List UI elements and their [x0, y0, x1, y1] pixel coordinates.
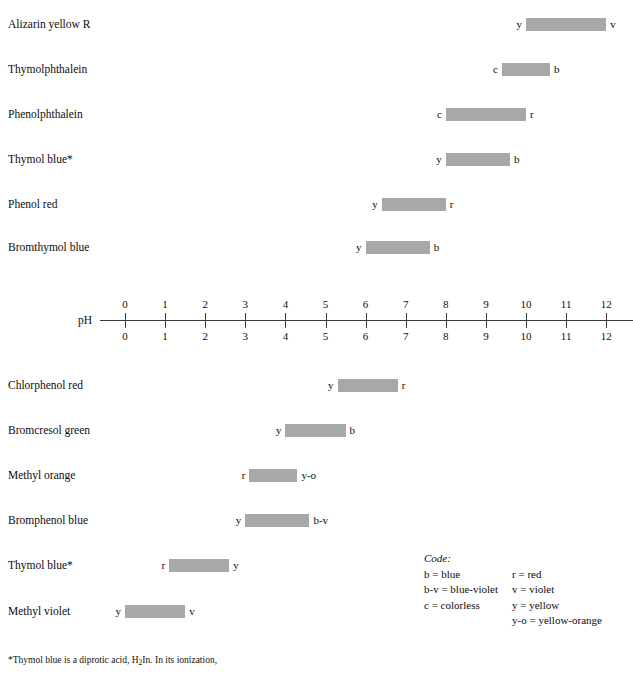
axis-tick-label-bottom-10: 10	[521, 330, 532, 343]
indicator-acid-color-code: y	[116, 600, 126, 622]
axis-tick-2	[205, 313, 206, 328]
axis-tick-label-top-10: 10	[521, 298, 532, 311]
indicator-acid-color-code: y	[517, 13, 527, 35]
axis-tick-label-top-11: 11	[561, 298, 572, 311]
indicator-name: Methyl orange	[8, 464, 75, 486]
axis-tick-label-top-2: 2	[202, 298, 208, 311]
axis-tick-label-bottom-0: 0	[122, 330, 128, 343]
indicator-row: Thymol blue*yb	[0, 148, 633, 170]
axis-tick-1	[165, 313, 166, 328]
indicator-name: Thymolphthalein	[8, 58, 87, 80]
indicator-base-color-code: r	[446, 193, 454, 215]
indicator-name: Chlorphenol red	[8, 374, 83, 396]
indicator-range-bar	[446, 153, 510, 166]
axis-tick-label-bottom-12: 12	[601, 330, 612, 343]
axis-tick-label-bottom-6: 6	[363, 330, 369, 343]
indicator-name: Thymol blue*	[8, 554, 73, 576]
ph-indicator-chart: Alizarin yellow RyvThymolphthaleincbPhen…	[0, 0, 633, 690]
axis-tick-label-top-7: 7	[403, 298, 409, 311]
axis-tick-label-top-3: 3	[243, 298, 249, 311]
indicator-range-bar	[382, 198, 446, 211]
indicator-base-color-code: b	[550, 58, 560, 80]
legend-entry: b = blue	[424, 567, 498, 583]
indicator-base-color-code: b-v	[309, 509, 328, 531]
indicator-acid-color-code: y	[276, 419, 286, 441]
indicator-range-bar	[249, 469, 297, 482]
legend-entry: y-o = yellow-orange	[512, 613, 602, 629]
legend-entry: v = violet	[512, 582, 602, 598]
axis-tick-12	[606, 313, 607, 328]
indicator-name: Alizarin yellow R	[8, 13, 90, 35]
axis-tick-7	[406, 313, 407, 328]
indicator-base-color-code: v	[606, 13, 616, 35]
legend-entry: b-v = blue-violet	[424, 582, 498, 598]
indicator-range-bar	[285, 424, 345, 437]
axis-tick-9	[486, 313, 487, 328]
indicator-row: Bromcresol greenyb	[0, 419, 633, 441]
indicator-row: Bromphenol blueyb-v	[0, 509, 633, 531]
indicator-row: Methyl orangery-o	[0, 464, 633, 486]
indicator-base-color-code: y-o	[297, 464, 316, 486]
indicator-range-bar	[446, 108, 526, 121]
axis-tick-label-bottom-11: 11	[561, 330, 572, 343]
axis-tick-label-top-6: 6	[363, 298, 369, 311]
indicator-acid-color-code: r	[242, 464, 250, 486]
indicator-range-bar	[526, 18, 606, 31]
axis-tick-label-bottom-4: 4	[283, 330, 289, 343]
footnote-text-a: *Thymol blue is a diprotic acid, H	[8, 655, 139, 665]
indicator-base-color-code: b	[346, 419, 356, 441]
indicator-range-bar	[245, 514, 309, 527]
indicator-acid-color-code: r	[161, 554, 169, 576]
axis-tick-label-bottom-3: 3	[243, 330, 249, 343]
axis-tick-label-top-8: 8	[443, 298, 449, 311]
indicator-range-bar	[125, 605, 185, 618]
legend: Code: b = blueb-v = blue-violetc = color…	[424, 551, 629, 629]
axis-tick-0	[125, 313, 126, 328]
axis-tick-label-bottom-5: 5	[323, 330, 329, 343]
footnote-text-b: In. In its ionization,	[142, 655, 217, 665]
ph-axis: pH 00112233445566778899101011111212	[0, 300, 633, 348]
legend-entry: y = yellow	[512, 598, 602, 614]
indicator-row: Phenolphthaleincr	[0, 103, 633, 125]
indicator-base-color-code: r	[526, 103, 534, 125]
axis-tick-label-bottom-7: 7	[403, 330, 409, 343]
axis-tick-11	[566, 313, 567, 328]
legend-title: Code:	[424, 551, 629, 567]
footnote-subscript: 2	[139, 658, 143, 667]
indicator-base-color-code: b	[430, 236, 440, 258]
indicator-row: Chlorphenol redyr	[0, 374, 633, 396]
indicator-base-color-code: r	[398, 374, 406, 396]
indicator-range-bar	[338, 379, 398, 392]
indicator-name: Bromcresol green	[8, 419, 90, 441]
indicator-base-color-code: y	[229, 554, 239, 576]
axis-tick-5	[326, 313, 327, 328]
indicator-name: Methyl violet	[8, 600, 70, 622]
indicator-row: Thymolphthaleincb	[0, 58, 633, 80]
axis-tick-label-top-4: 4	[283, 298, 289, 311]
axis-tick-10	[526, 313, 527, 328]
axis-tick-label-top-1: 1	[162, 298, 168, 311]
axis-tick-label-top-0: 0	[122, 298, 128, 311]
indicator-acid-color-code: c	[493, 58, 502, 80]
axis-tick-label-bottom-9: 9	[483, 330, 489, 343]
indicator-base-color-code: v	[185, 600, 195, 622]
indicator-range-bar	[366, 241, 430, 254]
axis-tick-label-top-9: 9	[483, 298, 489, 311]
axis-tick-4	[285, 313, 286, 328]
indicator-name: Bromphenol blue	[8, 509, 88, 531]
indicator-name: Phenol red	[8, 193, 58, 215]
indicator-name: Phenolphthalein	[8, 103, 83, 125]
indicator-row: Alizarin yellow Ryv	[0, 13, 633, 35]
indicator-range-bar	[169, 559, 229, 572]
indicator-row: Phenol redyr	[0, 193, 633, 215]
indicator-acid-color-code: y	[372, 193, 382, 215]
indicator-acid-color-code: y	[236, 509, 246, 531]
legend-column-left: b = blueb-v = blue-violetc = colorless	[424, 567, 498, 629]
axis-tick-label-bottom-2: 2	[202, 330, 208, 343]
indicator-range-bar	[502, 63, 550, 76]
axis-tick-8	[446, 313, 447, 328]
legend-entry: c = colorless	[424, 598, 498, 614]
axis-tick-6	[366, 313, 367, 328]
indicator-acid-color-code: c	[437, 103, 446, 125]
axis-tick-label-top-12: 12	[601, 298, 612, 311]
